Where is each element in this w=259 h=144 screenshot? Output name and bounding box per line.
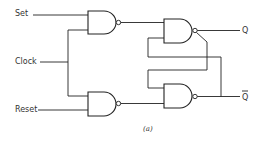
- figure-caption: (a): [143, 125, 153, 133]
- reset-label: Reset: [15, 105, 37, 114]
- nand-gate-1: [88, 11, 121, 34]
- nand-gate-2: [88, 92, 121, 116]
- nand-gate-4: [164, 84, 197, 108]
- nand-gate-3: [164, 19, 197, 43]
- set-label: Set: [15, 9, 28, 18]
- q-bar-label: Q: [242, 93, 248, 102]
- q-label: Q: [242, 26, 248, 35]
- flip-flop-diagram: Set Clock Reset Q Q: [0, 0, 259, 144]
- clock-wire: [40, 30, 88, 96]
- clock-label: Clock: [15, 57, 37, 66]
